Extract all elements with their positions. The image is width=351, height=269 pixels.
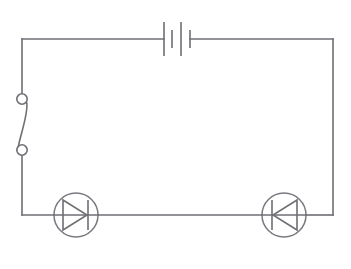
switch-terminal-top[interactable] <box>17 94 27 104</box>
switch-blade[interactable] <box>18 102 27 146</box>
wire-group <box>22 39 333 215</box>
diode-right-symbol[interactable] <box>262 193 306 237</box>
switch-terminal-bottom[interactable] <box>17 145 27 155</box>
circuit-diagram: Simple DC circuit schematic Closed recta… <box>0 0 351 269</box>
battery-symbol[interactable] <box>164 22 190 56</box>
diagram-canvas: Simple DC circuit schematic Closed recta… <box>0 0 351 269</box>
diode-left-symbol[interactable] <box>54 193 98 237</box>
switch-symbol[interactable] <box>17 94 27 155</box>
